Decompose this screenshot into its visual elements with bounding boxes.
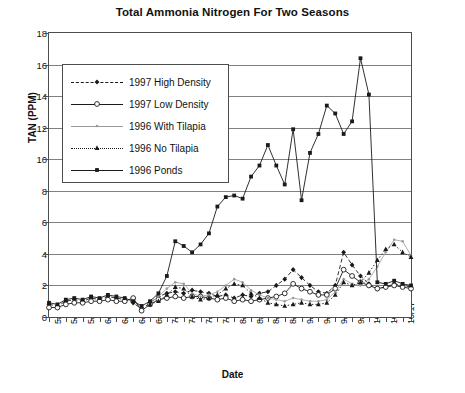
legend-item[interactable]: 1996 With Tilapia — [63, 115, 228, 137]
data-point — [123, 296, 127, 300]
data-point — [409, 254, 414, 259]
data-point — [359, 56, 363, 60]
data-point — [384, 282, 388, 286]
data-point — [325, 104, 329, 108]
data-point — [375, 286, 380, 291]
x-tick-mark — [386, 318, 387, 322]
data-point — [173, 289, 178, 294]
data-point — [249, 299, 254, 304]
x-tick-mark — [302, 318, 303, 322]
data-point — [190, 250, 194, 254]
data-point — [409, 284, 413, 288]
data-point — [89, 295, 93, 299]
data-point — [241, 197, 245, 201]
legend-item[interactable]: 1997 Low Density — [63, 93, 228, 115]
chart-title: Total Ammonia Nitrogen For Two Seasons — [0, 6, 465, 18]
data-point — [198, 289, 203, 294]
data-point — [401, 282, 405, 286]
legend-marker-diamond-icon — [71, 76, 123, 88]
data-point — [173, 294, 178, 299]
data-point — [282, 291, 287, 296]
data-point — [89, 299, 94, 304]
data-point — [274, 294, 279, 299]
data-point — [316, 293, 321, 298]
chart-container: Total Ammonia Nitrogen For Two Seasons T… — [0, 0, 465, 393]
data-point — [215, 205, 219, 209]
data-point — [173, 239, 177, 243]
data-point — [308, 302, 313, 307]
data-point — [265, 300, 270, 305]
legend-label: 1996 With Tilapia — [129, 121, 206, 132]
x-tick-mark — [49, 318, 50, 322]
data-point — [181, 296, 186, 301]
x-tick-mark — [268, 318, 269, 322]
data-point — [375, 280, 379, 284]
data-point — [291, 127, 295, 131]
data-point — [63, 302, 68, 307]
data-point — [224, 195, 228, 199]
x-tick-mark — [150, 318, 151, 322]
data-point — [81, 298, 85, 302]
x-tick-mark — [318, 318, 319, 322]
x-tick-mark — [83, 318, 84, 322]
x-tick-mark — [352, 318, 353, 322]
data-point — [249, 175, 253, 179]
data-point — [157, 295, 160, 298]
data-point — [367, 93, 371, 97]
data-point — [392, 283, 397, 288]
data-point — [258, 164, 262, 168]
x-tick-mark — [66, 318, 67, 322]
data-point — [308, 151, 312, 155]
x-tick-mark — [100, 318, 101, 322]
data-point — [367, 270, 372, 275]
data-point — [308, 289, 313, 294]
x-tick-mark — [369, 318, 370, 322]
data-point — [316, 132, 320, 136]
series-1996-no-tilapia — [148, 242, 414, 308]
data-point — [267, 297, 270, 300]
data-point — [232, 299, 237, 304]
data-point — [350, 119, 354, 123]
legend-item[interactable]: 1997 High Density — [63, 71, 228, 93]
series-line — [49, 270, 411, 311]
x-tick-mark — [201, 318, 202, 322]
data-point — [157, 291, 161, 295]
legend-marker-triangle-icon — [71, 142, 123, 154]
data-point — [350, 274, 355, 279]
legend-item[interactable]: 1996 Ponds — [63, 159, 228, 181]
legend-label: 1996 Ponds — [129, 165, 182, 176]
x-tick-mark — [167, 318, 168, 322]
legend-marker-star-small-icon — [71, 120, 123, 132]
data-point — [96, 125, 99, 128]
data-point — [393, 238, 396, 241]
data-point — [47, 305, 52, 310]
data-point — [47, 301, 51, 305]
data-point — [342, 132, 346, 136]
data-point — [173, 284, 178, 289]
data-point — [182, 244, 186, 248]
data-point — [64, 298, 68, 302]
data-point — [223, 296, 228, 301]
data-point — [292, 297, 295, 300]
data-point — [95, 145, 100, 150]
data-point — [140, 304, 144, 308]
data-point — [215, 292, 220, 297]
data-point — [384, 251, 387, 254]
data-point — [106, 293, 110, 297]
data-point — [383, 246, 388, 251]
x-tick-mark — [217, 318, 218, 322]
data-point — [359, 284, 362, 287]
data-point — [106, 297, 111, 302]
data-point — [114, 299, 119, 304]
data-point — [341, 267, 346, 272]
data-point — [274, 164, 278, 168]
x-tick-mark — [116, 318, 117, 322]
x-tick-mark — [251, 318, 252, 322]
legend: 1997 High Density1997 Low Density1996 Wi… — [62, 64, 229, 183]
legend-item[interactable]: 1996 No Tilapia — [63, 137, 228, 159]
data-point — [367, 283, 372, 288]
legend-marker-square-icon — [71, 164, 123, 176]
data-point — [199, 243, 203, 247]
data-point — [283, 300, 286, 303]
data-point — [275, 298, 278, 301]
